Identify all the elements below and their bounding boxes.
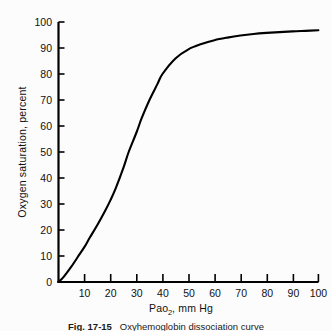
y-tick-label: 70: [40, 94, 52, 106]
x-tick-label: 60: [209, 287, 221, 299]
y-tick-label: 30: [40, 198, 52, 210]
x-tick-label: 50: [183, 287, 195, 299]
x-tick-label: 70: [235, 287, 247, 299]
oxyhemoglobin-dissociation-chart: 0 10 20 30 40 50 60 70 80 90 100 10 20 3…: [0, 0, 332, 331]
y-tick-label: 80: [40, 68, 52, 80]
y-tick-label: 90: [40, 42, 52, 54]
y-tick-label: 60: [40, 120, 52, 132]
y-tick-label: 50: [40, 146, 52, 158]
y-tick-label: 100: [34, 16, 52, 28]
x-tick-label: 80: [261, 287, 273, 299]
x-axis-title-main: Pao: [149, 302, 168, 314]
caption-text: Oxyhemoglobin dissociation curve: [120, 321, 264, 331]
y-tick-label: 40: [40, 172, 52, 184]
x-tick-label: 100: [310, 287, 328, 299]
y-axis-title: Oxygen saturation, percent: [16, 86, 28, 217]
figure-container: 0 10 20 30 40 50 60 70 80 90 100 10 20 3…: [0, 0, 332, 331]
figure-caption: Fig. 17-15 Oxyhemoglobin dissociation cu…: [0, 321, 332, 331]
y-tick-label: 0: [46, 276, 52, 288]
caption-figure-number: Fig. 17-15: [68, 321, 112, 331]
x-tick-label: 90: [288, 287, 300, 299]
x-tick-label: 30: [131, 287, 143, 299]
y-tick-label: 20: [40, 224, 52, 236]
x-tick-label: 10: [79, 287, 91, 299]
y-tick-label: 10: [40, 250, 52, 262]
x-tick-label: 40: [157, 287, 169, 299]
x-axis-title-rest: , mm Hg: [172, 302, 213, 314]
x-tick-label: 20: [105, 287, 117, 299]
